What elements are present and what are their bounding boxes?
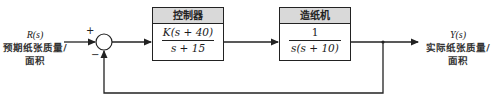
controller-transfer-function: K(s + 40) s + 15 (153, 26, 223, 55)
input-signal-label: R(s) 预期纸张质量/ 面积 (2, 28, 68, 67)
input-description-line2: 面积 (2, 54, 68, 67)
fraction-bar (289, 40, 341, 41)
output-symbol: Y(s) (420, 28, 496, 41)
summing-junction (96, 34, 112, 50)
plant-transfer-function: 1 s(s + 10) (280, 26, 350, 55)
controller-title: 控制器 (153, 8, 223, 24)
plus-sign: + (86, 25, 94, 36)
output-signal-label: Y(s) 实际纸张质量/ 面积 (420, 28, 496, 67)
minus-sign: − (91, 49, 99, 60)
controller-numerator: K(s + 40) (153, 26, 223, 39)
input-description-line1: 预期纸张质量/ (2, 41, 68, 54)
fraction-bar (162, 40, 214, 41)
output-description-line2: 面积 (420, 54, 496, 67)
plant-numerator: 1 (280, 26, 350, 39)
controller-block: 控制器 K(s + 40) s + 15 (152, 7, 224, 61)
plant-block: 造纸机 1 s(s + 10) (279, 7, 351, 61)
plant-title: 造纸机 (280, 8, 350, 24)
plant-denominator: s(s + 10) (280, 42, 350, 55)
output-description-line1: 实际纸张质量/ (420, 41, 496, 54)
controller-denominator: s + 15 (153, 42, 223, 55)
input-symbol: R(s) (2, 28, 68, 41)
